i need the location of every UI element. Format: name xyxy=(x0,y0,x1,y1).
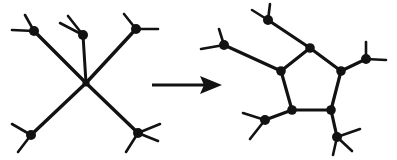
outer-node-bottom-right xyxy=(332,132,342,142)
edge-center-upper-left xyxy=(34,31,86,83)
transition-arrow xyxy=(152,76,222,94)
cycle-edge-top-right xyxy=(310,48,341,71)
leg-edge-top xyxy=(268,20,310,48)
leg-edge-left xyxy=(224,45,281,71)
figure-root: Vertex expansion: degree-5 vertex transf… xyxy=(0,0,397,160)
cycle-edge-bottom-left-left xyxy=(281,71,292,110)
cycle-vertex-left xyxy=(276,66,286,76)
cycle-vertex-top xyxy=(305,43,315,53)
edge-center-lower-right xyxy=(86,83,138,133)
edge-center-upper-mid xyxy=(83,35,86,83)
edge-center-lower-left xyxy=(31,83,86,135)
node-lower-right xyxy=(133,128,143,138)
node-upper-mid xyxy=(78,30,88,40)
node-lower-left xyxy=(26,130,36,140)
outer-node-right xyxy=(361,54,371,64)
left-graph xyxy=(12,14,160,152)
edge-center-upper-right xyxy=(86,29,136,83)
node-upper-right xyxy=(131,24,141,34)
cycle-edge-right-bottom-right xyxy=(331,71,341,110)
cycle-vertex-bottom-right xyxy=(326,105,336,115)
outer-node-left xyxy=(219,40,229,50)
diagram-canvas xyxy=(0,0,397,160)
center-vertex xyxy=(82,79,89,86)
outer-node-top xyxy=(263,15,273,25)
cycle-edge-left-top xyxy=(281,48,310,71)
cycle-vertex-right xyxy=(336,66,346,76)
outer-node-bottom-left xyxy=(260,115,270,125)
node-upper-left xyxy=(29,26,39,36)
cycle-vertex-bottom-left xyxy=(287,105,297,115)
right-graph xyxy=(201,4,386,155)
